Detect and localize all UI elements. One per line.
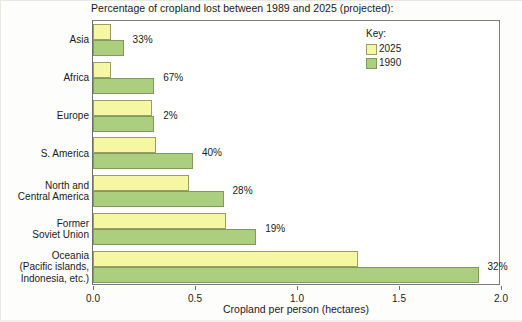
bar-percentage-label: 19% xyxy=(265,223,285,235)
category-label: Oceania(Pacific islands,Indonesia, etc.) xyxy=(20,250,89,285)
chart-row: 67%Africa xyxy=(93,59,499,97)
legend-label-2025: 2025 xyxy=(379,43,401,55)
plot-area: 33%Asia67%Africa2%Europe40%S. America28%… xyxy=(92,20,500,285)
x-axis-tick xyxy=(399,286,400,290)
legend-items: 20251990 xyxy=(366,43,401,69)
scan-edge-left xyxy=(0,0,1,322)
chart-title: Percentage of cropland lost between 1989… xyxy=(91,2,394,15)
bar-2025 xyxy=(93,100,152,116)
bar-2025 xyxy=(93,62,111,78)
x-axis-tick xyxy=(195,286,196,290)
bar-percentage-label: 33% xyxy=(133,34,153,46)
chart-row: 40%S. America xyxy=(93,135,499,173)
bar-percentage-label: 67% xyxy=(163,72,183,84)
bar-percentage-label: 28% xyxy=(233,185,253,197)
bar-1990 xyxy=(93,78,154,94)
bar-percentage-label: 2% xyxy=(163,110,177,122)
category-label: FormerSoviet Union xyxy=(32,218,89,241)
bar-2025 xyxy=(93,175,189,191)
x-axis-tick xyxy=(297,286,298,290)
bar-2025 xyxy=(93,137,156,153)
chart-figure: Percentage of cropland lost between 1989… xyxy=(0,0,522,322)
bar-1990 xyxy=(93,229,256,245)
x-axis-tick xyxy=(93,286,94,290)
legend-swatch-1990 xyxy=(366,58,377,69)
category-label: North andCentral America xyxy=(18,180,89,203)
category-label: Africa xyxy=(63,72,89,84)
bar-2025 xyxy=(93,213,226,229)
legend-item: 1990 xyxy=(366,57,401,69)
bar-percentage-label: 40% xyxy=(202,147,222,159)
category-label: Asia xyxy=(70,34,89,46)
x-axis-tick xyxy=(501,286,502,290)
chart-row: 28%North andCentral America xyxy=(93,172,499,210)
bar-1990 xyxy=(93,153,193,169)
bar-1990 xyxy=(93,40,124,56)
chart-row: 33%Asia xyxy=(93,21,499,59)
chart-row: 2%Europe xyxy=(93,97,499,135)
legend-title: Key: xyxy=(366,28,401,40)
bar-2025 xyxy=(93,251,358,267)
legend-item: 2025 xyxy=(366,43,401,55)
chart-row: 32%Oceania(Pacific islands,Indonesia, et… xyxy=(93,248,499,286)
bar-percentage-label: 32% xyxy=(488,261,508,273)
category-label: Europe xyxy=(57,110,89,122)
category-label: S. America xyxy=(41,148,89,160)
bar-1990 xyxy=(93,116,154,132)
bar-2025 xyxy=(93,24,111,40)
legend-swatch-2025 xyxy=(366,44,377,55)
legend-label-1990: 1990 xyxy=(379,57,401,69)
x-axis-title: Cropland per person (hectares) xyxy=(92,303,500,315)
scan-edge-top xyxy=(0,0,522,1)
bar-1990 xyxy=(93,191,224,207)
bar-1990 xyxy=(93,267,479,283)
chart-row: 19%FormerSoviet Union xyxy=(93,210,499,248)
legend: Key: 20251990 xyxy=(366,28,401,69)
